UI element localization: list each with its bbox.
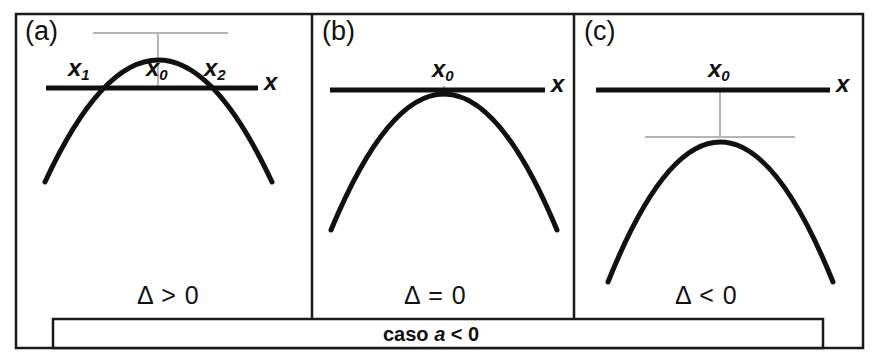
panel-a-axis-label: x (264, 70, 277, 94)
panel-b-axis-label: x (551, 72, 564, 96)
panel-a-tag: (a) (25, 18, 58, 45)
panel-a-root-2-label: x2 (204, 56, 226, 80)
panel-a-root-2-symbol: x (204, 54, 217, 81)
panel-b-delta-label: Δ = 0 (404, 283, 467, 308)
caption-variable: a (434, 323, 445, 345)
panel-c-delta-label: Δ < 0 (675, 283, 738, 308)
panel-b-vertex-label: x0 (432, 57, 454, 81)
figure-caption: caso a < 0 (383, 324, 479, 344)
panel-c-vertex-subscript: 0 (721, 67, 729, 84)
panel-c-vertex-symbol: x (708, 55, 721, 82)
panel-a-vertex-label: x0 (146, 56, 168, 80)
panel-c-axis-label: x (836, 72, 849, 96)
panel-c-vertex-label: x0 (708, 57, 730, 81)
panel-a-vertex-subscript: 0 (159, 66, 167, 83)
panel-a-root-1-subscript: 1 (81, 66, 89, 83)
panel-b-tag: (b) (322, 18, 355, 45)
panel-a-root-2-subscript: 2 (217, 66, 225, 83)
panel-b-vertex-symbol: x (432, 55, 445, 82)
panel-a-vertex-symbol: x (146, 54, 159, 81)
panel-b-vertex-subscript: 0 (445, 67, 453, 84)
caption-relation: < 0 (445, 323, 479, 345)
caption-prefix: caso (383, 323, 434, 345)
figure-container: (a) x1 x0 x2 x Δ > 0 (b) x0 x Δ = 0 (c) … (0, 0, 875, 362)
panel-c-tag: (c) (584, 18, 615, 45)
panel-a-root-1-symbol: x (68, 54, 81, 81)
panel-a-delta-label: Δ > 0 (137, 283, 200, 308)
panel-a-root-1-label: x1 (68, 56, 90, 80)
